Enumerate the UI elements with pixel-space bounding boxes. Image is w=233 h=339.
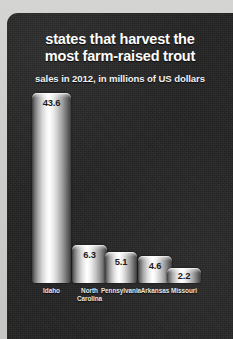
bar-chart-plot-area: 43.6 Idaho 6.3 North Carolina 5.1 Pennsy… [26,85,233,283]
chart-headings: states that harvest the most farm-raised… [7,31,233,84]
bar-slot-pennsylvania: 5.1 [105,252,137,283]
bar-slot-north-carolina: 6.3 [72,245,107,283]
chart-title-line-2: most farm-raised trout [7,48,233,65]
bar-slot-idaho: 43.6 [32,93,71,283]
bar-value-idaho: 43.6 [32,97,71,108]
chart-subtitle: sales in 2012, in millions of US dollars [7,73,233,84]
chart-title-line-1: states that harvest the [7,31,233,48]
infographic-card: states that harvest the most farm-raised… [7,13,233,339]
category-label-missouri: Missouri [166,287,202,295]
bar-value-missouri: 2.2 [167,270,201,281]
bar-missouri[interactable]: 2.2 [167,268,201,283]
bar-value-pennsylvania: 5.1 [105,256,137,267]
bar-pennsylvania[interactable]: 5.1 [105,252,137,283]
bar-value-north-carolina: 6.3 [72,249,107,260]
category-label-line: Missouri [171,287,197,294]
category-label-line: Carolina [77,295,102,302]
bar-slot-missouri: 2.2 [167,268,201,283]
bar-north-carolina[interactable]: 6.3 [72,245,107,283]
category-label-line: Arkansas [141,287,169,294]
bar-idaho[interactable]: 43.6 [32,93,71,283]
category-label-line: Idaho [43,287,60,294]
category-label-line: North [81,287,98,294]
